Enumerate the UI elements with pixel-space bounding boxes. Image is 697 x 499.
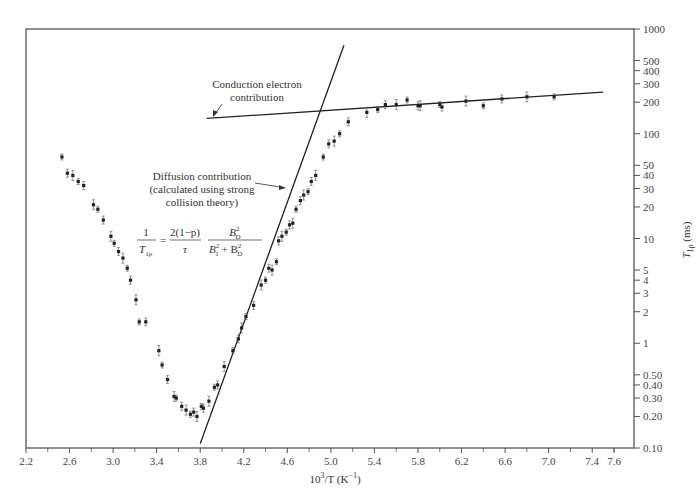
y-tick-label: 0.50: [643, 369, 663, 381]
data-point: [264, 279, 267, 282]
data-point: [288, 223, 291, 226]
data-point: [223, 365, 226, 368]
data-point: [419, 104, 422, 107]
y-tick-label: 1000: [643, 23, 666, 35]
data-point: [285, 231, 288, 234]
data-point: [277, 239, 280, 242]
equation: 1 T1ρ = 2(1−p) τ B2D B21 + B2D: [137, 225, 262, 258]
x-tick-label: 7.6: [607, 455, 621, 467]
x-tick-label: 4.6: [280, 455, 294, 467]
annotation-conduction: Conduction electron contribution: [212, 78, 302, 117]
data-point: [166, 378, 169, 381]
data-point: [77, 180, 80, 183]
svg-text:Diffusion contribution: Diffusion contribution: [153, 170, 252, 182]
data-point: [231, 349, 234, 352]
data-point: [71, 174, 74, 177]
data-point: [180, 405, 183, 408]
data-point: [322, 155, 325, 158]
data-point: [347, 120, 350, 123]
data-point: [280, 235, 283, 238]
data-point: [60, 155, 63, 158]
y-tick-label: 1: [643, 337, 649, 349]
data-point: [376, 108, 379, 111]
data-point: [252, 304, 255, 307]
data-point: [213, 386, 216, 389]
x-tick-label: 7.0: [542, 455, 556, 467]
data-point: [384, 103, 387, 106]
data-point: [294, 208, 297, 211]
x-tick-label: 7.4: [585, 455, 599, 467]
data-point: [314, 174, 317, 177]
data-point: [306, 190, 309, 193]
svg-text:1: 1: [143, 226, 149, 238]
x-axis-title: 103/T (K−1): [309, 471, 360, 486]
y-tick-label: 500: [643, 55, 660, 67]
data-points: [60, 92, 555, 422]
y-tick-label: 3: [643, 287, 649, 299]
data-point: [327, 142, 330, 145]
y-tick-label: 0.20: [643, 410, 663, 422]
svg-text:(calculated using strong: (calculated using strong: [149, 183, 255, 196]
data-point: [440, 105, 443, 108]
svg-text:T1ρ: T1ρ: [139, 243, 153, 258]
y-axis: 0.100.200.300.400.5012345102030405010020…: [634, 23, 666, 454]
x-tick-label: 5.4: [368, 455, 382, 467]
svg-text:B21 + B2D: B21 + B2D: [209, 242, 242, 258]
x-tick-label: 2.6: [63, 455, 77, 467]
data-point: [260, 283, 263, 286]
data-point: [482, 104, 485, 107]
fit-lines: [200, 45, 603, 443]
data-point: [117, 250, 120, 253]
y-tick-label: 50: [643, 159, 655, 171]
data-point: [102, 218, 105, 221]
data-point: [138, 320, 141, 323]
y-tick-label: 5: [643, 264, 649, 276]
x-tick-label: 5.8: [411, 455, 425, 467]
annotation-diffusion: Diffusion contribution (calculated using…: [149, 170, 286, 209]
data-point: [129, 279, 132, 282]
y-tick-label: 10: [643, 233, 655, 245]
svg-text:contribution: contribution: [230, 91, 284, 103]
data-point: [240, 326, 243, 329]
y-tick-label: 30: [643, 183, 655, 195]
y-tick-label: 0.10: [643, 442, 663, 454]
y-tick-label: 100: [643, 128, 660, 140]
data-point: [270, 268, 273, 271]
data-point: [192, 411, 195, 414]
y-tick-label: 300: [643, 78, 660, 90]
y-tick-label: 0.30: [643, 392, 663, 404]
svg-text:Conduction electron: Conduction electron: [212, 78, 302, 90]
data-point: [96, 208, 99, 211]
data-point: [126, 267, 129, 270]
data-point: [302, 193, 305, 196]
x-tick-label: 3.8: [193, 455, 207, 467]
data-point: [202, 407, 205, 410]
x-tick-label: 6.6: [498, 455, 512, 467]
data-point: [237, 337, 240, 340]
data-point: [244, 315, 247, 318]
svg-text:B2D: B2D: [229, 225, 240, 241]
chart-svg: 2.22.63.03.43.84.24.65.05.45.86.26.67.07…: [0, 0, 697, 499]
data-point: [291, 222, 294, 225]
svg-text:2(1−p): 2(1−p): [170, 226, 200, 239]
data-point: [195, 415, 198, 418]
data-point: [157, 349, 160, 352]
data-point: [184, 409, 187, 412]
data-point: [144, 320, 147, 323]
data-point: [525, 95, 528, 98]
data-point: [333, 140, 336, 143]
x-tick-label: 3.0: [106, 455, 120, 467]
data-point: [121, 256, 124, 259]
x-axis: 2.22.63.03.43.84.24.65.05.45.86.26.67.07…: [19, 448, 621, 467]
data-point: [92, 203, 95, 206]
y-tick-label: 2: [643, 306, 649, 318]
x-tick-label: 3.4: [150, 455, 164, 467]
data-point: [134, 298, 137, 301]
data-point: [500, 97, 503, 100]
svg-text:τ: τ: [183, 243, 188, 255]
svg-text:collision theory): collision theory): [166, 196, 239, 209]
y-tick-label: 200: [643, 96, 660, 108]
data-point: [161, 363, 164, 366]
data-point: [395, 103, 398, 106]
data-point: [189, 413, 192, 416]
